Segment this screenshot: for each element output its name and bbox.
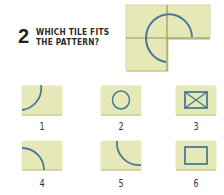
pattern-tiles [124,3,212,73]
option-label-1: 1 [25,121,59,132]
option-tile-2[interactable] [100,85,142,116]
option-label-5: 5 [104,178,138,189]
question-number: 2 [18,26,28,46]
option-tile-1[interactable] [21,85,63,116]
question-text: WHICH TILE FITS THE PATTERN? [36,27,109,47]
option-label-6: 6 [179,178,213,189]
option-tile-5[interactable] [100,140,142,171]
option-tile-3[interactable] [175,85,217,116]
option-label-4: 4 [25,178,59,189]
question-line-2: THE PATTERN? [36,37,109,47]
option-tile-6[interactable] [175,140,217,171]
option-tile-4[interactable] [21,140,63,171]
option-label-2: 2 [104,121,138,132]
option-label-3: 3 [179,121,213,132]
